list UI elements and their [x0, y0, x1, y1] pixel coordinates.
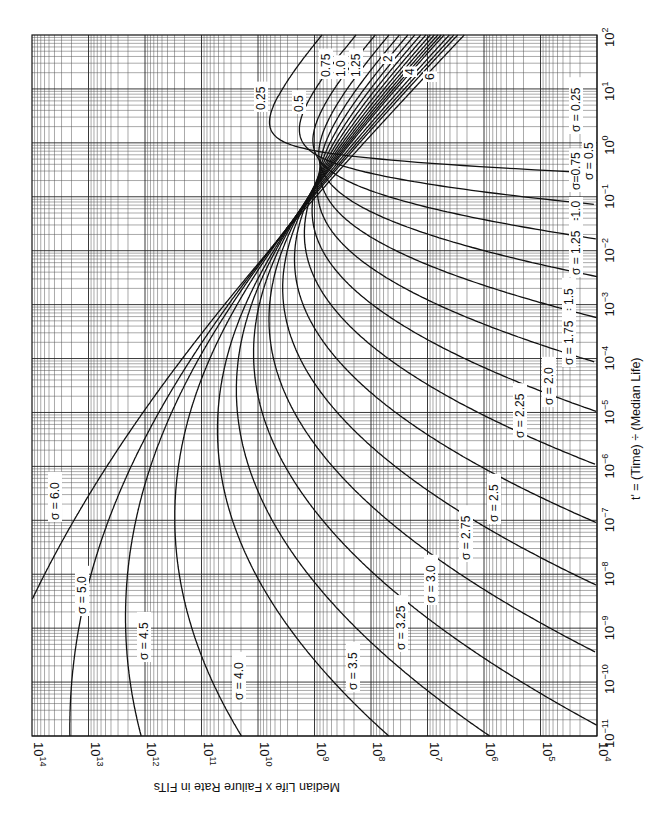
x-tick-label: 10−9: [600, 615, 617, 640]
svg-text:10−9: 10−9: [600, 615, 617, 640]
svg-text:1014: 1014: [31, 742, 48, 766]
curve-label: 0.75: [319, 49, 333, 79]
svg-text:10−3: 10−3: [600, 292, 617, 317]
svg-text:10−8: 10−8: [600, 561, 617, 586]
svg-text:108: 108: [370, 742, 387, 761]
curve-label: σ = 2.5: [487, 474, 501, 524]
x-tick-label: 10−2: [600, 238, 617, 263]
svg-text:σ = 1.25: σ = 1.25: [569, 230, 583, 275]
svg-text:106: 106: [483, 742, 500, 761]
curve-label: σ = 3.25: [394, 595, 408, 652]
curve-label: σ = 0.25: [569, 77, 583, 134]
svg-text:10−6: 10−6: [600, 454, 617, 479]
y-tick-label: 1014: [31, 742, 48, 766]
curve-label: σ = 6.0: [48, 472, 62, 522]
curve-label: σ = 1.25: [569, 220, 583, 277]
y-axis-tick-labels: 10410510610710810910101011101210131014: [31, 742, 613, 766]
lognormal-failure-rate-chart: 0.250.50.751.01.25246σ = 0.25σ = 0.5σ=0.…: [0, 0, 659, 813]
y-axis-title: Median Life x Failure Rate in FITs: [154, 780, 340, 794]
svg-text:σ = 3.0: σ = 3.0: [424, 565, 438, 603]
y-tick-label: 109: [314, 742, 331, 761]
svg-text:105: 105: [540, 742, 557, 761]
x-tick-label: 10−7: [600, 508, 617, 533]
svg-text:1.0: 1.0: [334, 60, 348, 77]
y-tick-label: 1012: [144, 742, 161, 766]
curve-label: 6: [423, 71, 437, 82]
curve-label: σ = 5.0: [75, 566, 89, 616]
x-tick-label: 100: [600, 135, 617, 154]
y-tick-label: 106: [483, 742, 500, 761]
curve-label: σ = 0.5: [582, 132, 596, 182]
curve-label: σ = 4.0: [232, 652, 246, 702]
curve-label: 0.25: [254, 82, 268, 112]
svg-text:1.25: 1.25: [349, 53, 363, 77]
svg-text:1011: 1011: [201, 742, 218, 766]
svg-text:107: 107: [427, 742, 444, 761]
x-tick-label: 10−6: [600, 454, 617, 479]
curve-label: σ=0.75: [569, 148, 583, 192]
svg-text:σ = 5.0: σ = 5.0: [75, 576, 89, 614]
svg-text:σ = 3.25: σ = 3.25: [394, 605, 408, 650]
y-tick-label: 104: [596, 742, 613, 761]
x-axis-title: t' = (Time) ÷ (Median Life): [629, 358, 643, 501]
y-tick-label: 1010: [257, 742, 274, 766]
curve-label: σ = 3.5: [346, 642, 360, 692]
curve-label: 2: [381, 53, 395, 64]
svg-text:102: 102: [600, 28, 617, 47]
svg-text:10−10: 10−10: [600, 664, 617, 694]
svg-text:σ = 6.0: σ = 6.0: [48, 482, 62, 520]
x-tick-label: 10−3: [600, 292, 617, 317]
y-tick-label: 107: [427, 742, 444, 761]
x-tick-label: 10−5: [600, 400, 617, 425]
svg-text:4: 4: [403, 68, 417, 75]
x-tick-label: 10−8: [600, 561, 617, 586]
y-tick-label: 105: [540, 742, 557, 761]
curve-label: σ = 1.75: [562, 310, 576, 367]
x-tick-label: 102: [600, 28, 617, 47]
x-axis-tick-labels: 10−1110−1010−910−810−710−610−510−410−310…: [600, 28, 617, 748]
svg-text:0.75: 0.75: [319, 53, 333, 77]
svg-text:σ=0.75: σ=0.75: [569, 152, 583, 190]
svg-text:10−5: 10−5: [600, 400, 617, 425]
curve-label: 4: [403, 66, 417, 77]
svg-text:σ = 1.75: σ = 1.75: [562, 320, 576, 365]
svg-text:σ = 4.0: σ = 4.0: [232, 662, 246, 700]
svg-text:1013: 1013: [88, 742, 105, 766]
svg-text:σ = 0.25: σ = 0.25: [569, 87, 583, 132]
curve-label: σ = 2.25: [513, 383, 527, 440]
x-tick-label: 10−1: [600, 184, 617, 209]
svg-text:101: 101: [600, 81, 617, 100]
svg-text:104: 104: [596, 742, 613, 761]
curve-label: σ = 3.0: [424, 555, 438, 605]
svg-text:10−4: 10−4: [600, 346, 617, 371]
curve-label: σ = 4.5: [137, 612, 151, 662]
svg-text:6: 6: [423, 73, 437, 80]
curve-label: 0.5: [292, 90, 306, 114]
curve-label: σ = 2.0: [542, 357, 556, 407]
curve-label: 1.0: [334, 55, 348, 79]
svg-text:σ = 3.5: σ = 3.5: [346, 652, 360, 690]
curve-label: 1.25: [349, 49, 363, 79]
svg-text:10−2: 10−2: [600, 238, 617, 263]
svg-text:σ = 4.5: σ = 4.5: [137, 622, 151, 660]
svg-text:σ = 2.25: σ = 2.25: [513, 393, 527, 438]
x-tick-label: 10−10: [600, 664, 617, 694]
svg-text:0.25: 0.25: [254, 86, 268, 110]
svg-text:σ = 0.5: σ = 0.5: [582, 142, 596, 180]
svg-text:σ = 2.75: σ = 2.75: [459, 515, 473, 560]
y-tick-label: 1013: [88, 742, 105, 766]
svg-text:10−1: 10−1: [600, 184, 617, 209]
svg-text:1010: 1010: [257, 742, 274, 766]
x-tick-label: 101: [600, 81, 617, 100]
svg-text:10−7: 10−7: [600, 508, 617, 533]
y-tick-label: 1011: [201, 742, 218, 766]
svg-text:1012: 1012: [144, 742, 161, 766]
svg-text:σ = 2.5: σ = 2.5: [487, 484, 501, 522]
svg-text:2: 2: [381, 55, 395, 62]
svg-text:109: 109: [314, 742, 331, 761]
svg-text:0.5: 0.5: [292, 95, 306, 112]
svg-text:σ = 2.0: σ = 2.0: [542, 367, 556, 405]
curve-label: σ = 2.75: [459, 505, 473, 562]
curve-labels: 0.250.50.751.01.25246σ = 0.25σ = 0.5σ=0.…: [48, 49, 596, 702]
y-tick-label: 108: [370, 742, 387, 761]
